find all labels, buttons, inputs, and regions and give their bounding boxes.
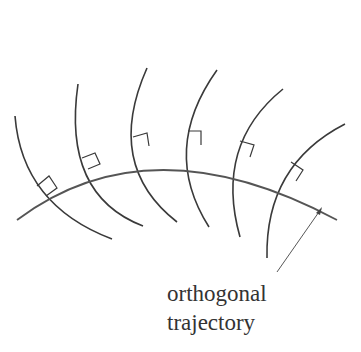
right-angle-marker-1 — [37, 176, 57, 196]
label-line-1: orthogonal — [167, 279, 267, 308]
right-angle-marker-2 — [82, 153, 100, 169]
family-curve-1 — [15, 116, 112, 239]
right-angle-marker-4 — [188, 131, 201, 145]
family-curve-3 — [131, 68, 177, 222]
right-angle-marker-3 — [133, 133, 149, 146]
family-curve-6 — [267, 124, 345, 258]
pointer-arrow-line — [277, 209, 321, 272]
label-line-2: trajectory — [167, 308, 267, 337]
trajectory-label: orthogonal trajectory — [167, 279, 267, 337]
family-curve-5 — [233, 89, 283, 237]
family-curve-4 — [186, 70, 217, 227]
right-angle-marker-6 — [291, 162, 303, 181]
